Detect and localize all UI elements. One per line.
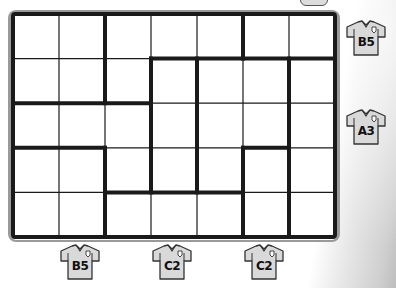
grid-cell-r1-c4[interactable] — [197, 59, 243, 104]
grid-cell-r3-c0[interactable] — [13, 148, 59, 193]
jersey-clue: B5 — [344, 19, 388, 57]
grid-cell-r2-c5[interactable] — [243, 103, 289, 148]
grid-cell-r2-c0[interactable] — [13, 103, 59, 148]
crest-icon — [372, 116, 376, 122]
grid-cell-r0-c6[interactable] — [289, 14, 335, 59]
jersey-clue: C2 — [150, 243, 194, 281]
grid-cell-r0-c3[interactable] — [151, 14, 197, 59]
grid-cell-r1-c5[interactable] — [243, 59, 289, 104]
grid-cell-r2-c2[interactable] — [105, 103, 151, 148]
grid-cell-r4-c5[interactable] — [243, 192, 289, 237]
jersey-label: C2 — [242, 259, 286, 273]
grid-cell-r1-c3[interactable] — [151, 59, 197, 104]
grid-cell-r2-c4[interactable] — [197, 103, 243, 148]
grid-cell-r1-c6[interactable] — [289, 59, 335, 104]
grid-cell-r0-c2[interactable] — [105, 14, 151, 59]
jersey-clue: A3 — [344, 108, 388, 146]
crest-icon — [178, 251, 182, 257]
grid-cell-r4-c4[interactable] — [197, 192, 243, 237]
grid-cell-r4-c3[interactable] — [151, 192, 197, 237]
jersey-label: B5 — [344, 35, 388, 49]
jersey-clue: C2 — [242, 243, 286, 281]
grid-cell-r0-c4[interactable] — [197, 14, 243, 59]
grid-cell-r1-c1[interactable] — [59, 59, 105, 104]
grid-cell-r3-c3[interactable] — [151, 148, 197, 193]
grid-cell-r3-c1[interactable] — [59, 148, 105, 193]
grid-cell-r2-c6[interactable] — [289, 103, 335, 148]
jersey-label: A3 — [344, 124, 388, 138]
jersey-label: B5 — [58, 259, 102, 273]
grid-cell-r4-c1[interactable] — [59, 192, 105, 237]
grid-cell-r0-c0[interactable] — [13, 14, 59, 59]
grid-cell-r1-c0[interactable] — [13, 59, 59, 104]
jersey-label: C2 — [150, 259, 194, 273]
grid-cell-r2-c3[interactable] — [151, 103, 197, 148]
grid-cell-r0-c1[interactable] — [59, 14, 105, 59]
jersey-clue: B5 — [58, 243, 102, 281]
grid-cell-r1-c2[interactable] — [105, 59, 151, 104]
crest-icon — [372, 27, 376, 33]
crest-icon — [270, 251, 274, 257]
grid-cell-r4-c6[interactable] — [289, 192, 335, 237]
grid-cell-r0-c5[interactable] — [243, 14, 289, 59]
grid-cell-r4-c2[interactable] — [105, 192, 151, 237]
grid-cell-r3-c6[interactable] — [289, 148, 335, 193]
grid-cell-r4-c0[interactable] — [13, 192, 59, 237]
crest-icon — [86, 251, 90, 257]
grid-cell-r3-c4[interactable] — [197, 148, 243, 193]
grid-cell-r3-c2[interactable] — [105, 148, 151, 193]
grid-cell-r2-c1[interactable] — [59, 103, 105, 148]
grid-cell-r3-c5[interactable] — [243, 148, 289, 193]
